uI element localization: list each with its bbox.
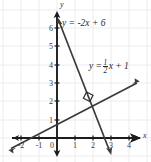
x-tick-label-neg2: -2	[15, 141, 27, 150]
y-tick-label-6: 6	[43, 24, 53, 33]
equation2-lhs: y	[89, 61, 93, 71]
equation1-equals: =	[69, 18, 75, 28]
coordinate-plane-figure: y x -2 -1 0 1 2 3 4 1 2 3 4 5 6 y = -2x …	[0, 0, 151, 162]
y-tick-label-4: 4	[43, 61, 53, 70]
y-tick-label-1: 1	[43, 116, 53, 125]
y-axis	[54, 11, 61, 157]
equation-label-line2: y =12x + 1	[89, 59, 129, 76]
equation1-lhs: y	[62, 18, 66, 28]
equation2-equals: =	[96, 61, 102, 71]
equation2-fraction: 12	[103, 59, 109, 76]
x-tick-label-2: 2	[87, 141, 99, 150]
x-tick-label-0: 0	[46, 141, 58, 150]
y-tick-label-5: 5	[43, 42, 53, 51]
equation-label-line1: y = -2x + 6	[62, 19, 105, 29]
y-tick-label-3: 3	[43, 79, 53, 88]
x-tick-label-4: 4	[123, 141, 135, 150]
equation1-rhs: -2x + 6	[77, 18, 105, 28]
equation2-tail: x + 1	[109, 61, 129, 71]
x-tick-label-neg1: -1	[33, 141, 45, 150]
equation2-denominator: 2	[103, 66, 109, 75]
y-axis-label: y	[60, 0, 64, 9]
x-tick-label-3: 3	[105, 141, 117, 150]
equation2-numerator: 1	[103, 59, 109, 67]
x-tick-label-1: 1	[69, 141, 81, 150]
y-tick-label-2: 2	[43, 97, 53, 106]
line-steep-negative-slope	[56, 17, 112, 155]
x-axis-label: x	[143, 131, 147, 140]
